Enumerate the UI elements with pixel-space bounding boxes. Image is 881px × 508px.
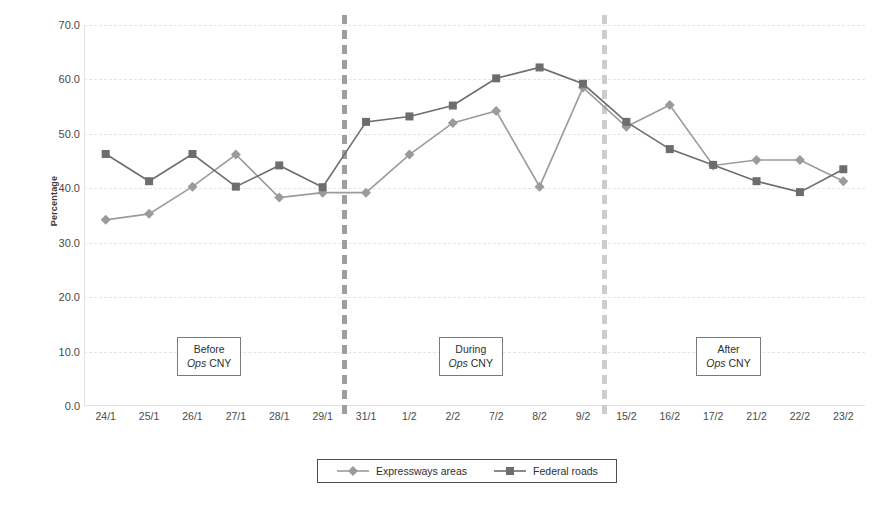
x-tick-label: 15/2	[616, 410, 636, 422]
x-tick-label: 8/2	[532, 410, 547, 422]
x-tick-label: 9/2	[576, 410, 591, 422]
y-tick-label: 10.0	[24, 346, 80, 358]
y-tick-label: 30.0	[24, 237, 80, 249]
x-tick-label: 17/2	[703, 410, 723, 422]
y-tick-label: 70.0	[24, 19, 80, 31]
x-axis-tick-labels: 24/125/126/127/128/129/131/11/22/27/28/2…	[84, 0, 865, 508]
legend-item-expressways-areas[interactable]: Expressways areas	[336, 465, 467, 477]
legend-item-federal-roads[interactable]: Federal roads	[493, 465, 598, 477]
chart-legend: Expressways areasFederal roads	[317, 459, 617, 483]
x-tick-label: 31/1	[356, 410, 376, 422]
x-tick-label: 25/1	[139, 410, 159, 422]
x-tick-label: 24/1	[95, 410, 115, 422]
x-tick-label: 29/1	[312, 410, 332, 422]
y-tick-label: 60.0	[24, 73, 80, 85]
x-tick-label: 1/2	[402, 410, 417, 422]
x-tick-label: 23/2	[833, 410, 853, 422]
x-tick-label: 2/2	[445, 410, 460, 422]
y-tick-label: 40.0	[24, 182, 80, 194]
y-axis-tick-labels: 0.010.020.030.040.050.060.070.0	[14, 0, 80, 508]
y-tick-label: 50.0	[24, 128, 80, 140]
legend-label: Expressways areas	[376, 465, 467, 477]
line-chart: Percentage 0.010.020.030.040.050.060.070…	[0, 0, 881, 508]
x-tick-label: 21/2	[746, 410, 766, 422]
legend-swatch-icon	[336, 465, 370, 477]
y-tick-label: 20.0	[24, 291, 80, 303]
x-tick-label: 26/1	[182, 410, 202, 422]
x-tick-label: 28/1	[269, 410, 289, 422]
legend-swatch-icon	[493, 465, 527, 477]
x-tick-label: 7/2	[489, 410, 504, 422]
y-tick-label: 0.0	[24, 400, 80, 412]
x-tick-label: 27/1	[226, 410, 246, 422]
x-tick-label: 22/2	[790, 410, 810, 422]
legend-label: Federal roads	[533, 465, 598, 477]
x-tick-label: 16/2	[660, 410, 680, 422]
